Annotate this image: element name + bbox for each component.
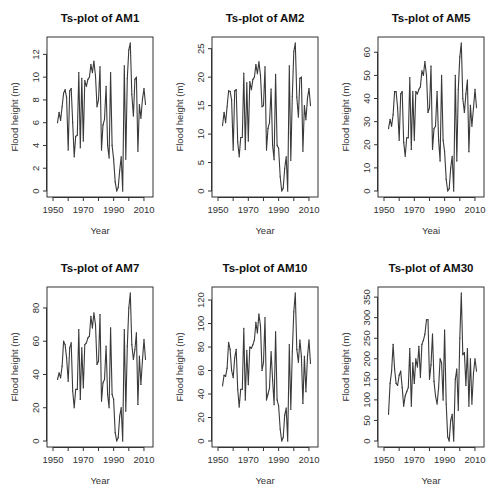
data-point xyxy=(423,75,424,76)
data-point xyxy=(443,140,444,141)
data-point xyxy=(226,106,227,107)
data-point xyxy=(427,319,428,320)
data-point xyxy=(75,389,76,390)
data-point xyxy=(467,348,468,349)
data-point xyxy=(283,437,284,438)
data-point xyxy=(305,391,306,392)
data-point xyxy=(433,381,434,382)
data-point xyxy=(143,88,144,89)
x-axis: 1950197019902010 xyxy=(373,447,485,465)
data-point xyxy=(411,405,412,406)
data-point xyxy=(462,98,463,99)
data-point xyxy=(237,141,238,142)
chart-title: Ts-plot of AM1 xyxy=(61,12,140,24)
data-point xyxy=(449,188,450,189)
data-point xyxy=(251,348,252,349)
data-point xyxy=(245,399,246,400)
data-point xyxy=(408,387,409,388)
x-tick-label: 1990 xyxy=(103,454,124,465)
data-point xyxy=(236,89,237,90)
data-point xyxy=(406,391,407,392)
data-point xyxy=(474,358,475,359)
data-point xyxy=(127,78,128,79)
data-point xyxy=(236,349,237,350)
data-point xyxy=(412,91,413,92)
data-point xyxy=(145,104,146,105)
x-tick-label: 2010 xyxy=(133,204,154,215)
data-point xyxy=(275,331,276,332)
data-point xyxy=(242,389,243,390)
data-point xyxy=(90,64,91,65)
data-point xyxy=(110,327,111,328)
data-point xyxy=(281,190,282,191)
data-point xyxy=(301,77,302,78)
data-point xyxy=(415,91,416,92)
data-point xyxy=(98,99,99,100)
data-point xyxy=(234,90,235,91)
data-point xyxy=(473,107,474,108)
x-axis-label: Year xyxy=(90,225,109,236)
y-tick-label: 20 xyxy=(361,139,372,150)
data-point xyxy=(453,190,454,191)
y-tick-label: 0 xyxy=(361,438,372,443)
data-point xyxy=(119,415,120,416)
chart-svg: Ts-plot of AM101950197019902010020406080… xyxy=(165,250,330,500)
y-axis-label: Flood height (m) xyxy=(9,82,20,151)
data-point xyxy=(453,440,454,441)
data-points xyxy=(222,292,311,441)
data-point xyxy=(63,92,64,93)
data-point xyxy=(476,371,477,372)
data-point xyxy=(74,407,75,408)
data-point xyxy=(275,74,276,75)
data-point xyxy=(446,403,447,404)
y-axis: 020406080100120 xyxy=(195,292,212,444)
y-tick-label: 40 xyxy=(361,93,372,104)
data-point xyxy=(102,382,103,383)
data-point xyxy=(467,79,468,80)
data-point xyxy=(435,395,436,396)
data-point xyxy=(392,114,393,115)
data-point xyxy=(223,375,224,376)
data-point xyxy=(61,106,62,107)
data-point xyxy=(263,362,264,363)
chart-panel-am30: Ts-plot of AM301950197019902010050100150… xyxy=(331,250,496,500)
data-point xyxy=(143,339,144,340)
data-point xyxy=(426,75,427,76)
data-point xyxy=(92,327,93,328)
data-point xyxy=(84,344,85,345)
data-point xyxy=(230,349,231,350)
data-point xyxy=(402,91,403,92)
data-point xyxy=(420,86,421,87)
y-tick-label: 0 xyxy=(30,188,41,193)
y-tick-label: 30 xyxy=(361,116,372,127)
data-point xyxy=(439,358,440,359)
data-point xyxy=(252,344,253,345)
y-tick-label: 350 xyxy=(361,289,372,305)
data-point xyxy=(424,334,425,335)
data-point xyxy=(444,151,445,152)
data-point xyxy=(273,159,274,160)
y-tick-label: 0 xyxy=(195,188,206,193)
data-point xyxy=(81,78,82,79)
data-point xyxy=(389,383,390,384)
series-line xyxy=(223,293,311,441)
data-point xyxy=(301,356,302,357)
data-point xyxy=(459,56,460,57)
data-point xyxy=(225,122,226,123)
data-points xyxy=(388,42,477,191)
data-point xyxy=(105,86,106,87)
data-point xyxy=(423,340,424,341)
data-point xyxy=(58,112,59,113)
data-point xyxy=(310,363,311,364)
x-tick-label: 1970 xyxy=(238,204,259,215)
y-tick-label: 15 xyxy=(195,100,206,111)
data-point xyxy=(57,122,58,123)
data-point xyxy=(110,72,111,73)
data-point xyxy=(411,149,412,150)
data-point xyxy=(80,399,81,400)
data-point xyxy=(462,354,463,355)
data-point xyxy=(447,190,448,191)
x-tick-label: 1950 xyxy=(42,454,63,465)
data-point xyxy=(90,316,91,317)
data-point xyxy=(61,366,62,367)
